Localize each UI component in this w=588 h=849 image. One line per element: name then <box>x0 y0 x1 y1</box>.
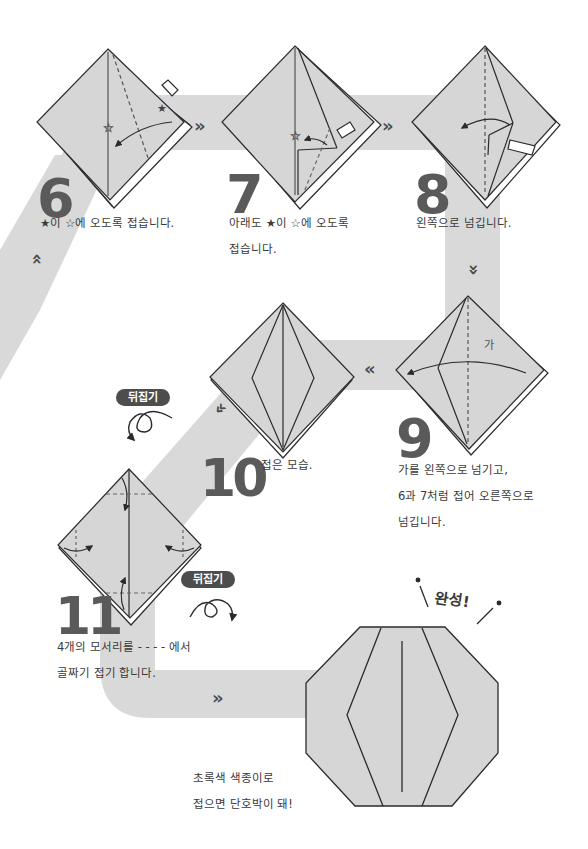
flip-badge: 뒤집기 <box>181 571 235 588</box>
diagram-label-ga: 가 <box>484 336 494 352</box>
caption-line: 접은 모습. <box>261 452 312 478</box>
pumpkin-octagon-icon <box>306 627 498 806</box>
step-9-caption: 가를 왼쪽으로 넘기고, 6과 7처럼 접어 오른쪽으로 넘깁니다. <box>398 457 534 535</box>
svg-text:☆: ☆ <box>103 121 114 135</box>
step-6-caption: ★이 ☆에 오도록 접습니다. <box>40 210 174 236</box>
step-10-caption: 접은 모습. <box>261 452 312 478</box>
caption-line: 넘깁니다. <box>398 509 534 535</box>
chevron-down-icon: » <box>464 264 485 276</box>
caption-line: 6과 7처럼 접어 오른쪽으로 <box>398 483 534 509</box>
svg-text:☆: ☆ <box>290 129 301 143</box>
step-11-caption: 4개의 모서리를 - - - - 에서 골짜기 접기 합니다. <box>57 634 191 686</box>
svg-text:★: ★ <box>157 102 167 115</box>
caption-line: 초록색 색종이로 <box>193 765 293 791</box>
chevron-right-icon: » <box>194 115 206 136</box>
chevron-right-icon: » <box>382 115 394 136</box>
caption-line: 4개의 모서리를 - - - - 에서 <box>57 634 191 660</box>
caption-line: 접습니다. <box>229 236 349 262</box>
flip-badge: 뒤집기 <box>116 389 170 406</box>
caption-line: 접으면 단호박이 돼! <box>193 791 293 817</box>
chevron-up-icon: » <box>25 253 46 265</box>
caption-line: 아래도 ★이 ☆에 오도록 <box>229 210 349 236</box>
chevron-left-icon: « <box>364 358 376 379</box>
caption-line: 골짜기 접기 합니다. <box>57 660 191 686</box>
step-10-number: 10 <box>200 452 264 504</box>
step-7-caption: 아래도 ★이 ☆에 오도록 접습니다. <box>229 210 349 262</box>
chevron-right-icon: » <box>212 687 224 708</box>
step-8-caption: 왼쪽으로 넘깁니다. <box>416 210 511 236</box>
caption-line: 가를 왼쪽으로 넘기고, <box>398 457 534 483</box>
instruction-artwork: ☆ ★ ☆ <box>0 0 588 849</box>
final-caption: 초록색 색종이로 접으면 단호박이 돼! <box>193 765 293 817</box>
caption-line: 왼쪽으로 넘깁니다. <box>416 210 511 236</box>
caption-line: ★이 ☆에 오도록 접습니다. <box>40 210 174 236</box>
